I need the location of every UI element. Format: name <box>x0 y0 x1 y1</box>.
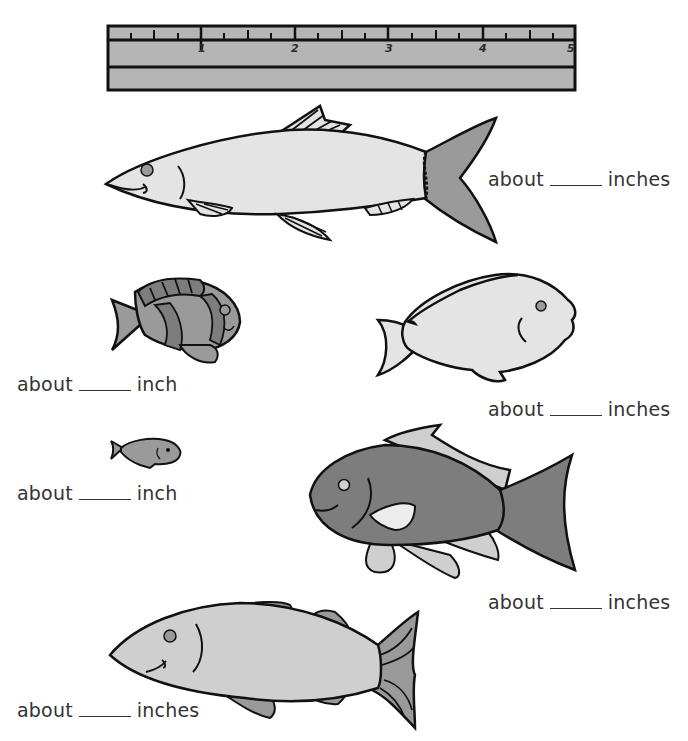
unit-text: inches <box>137 699 200 721</box>
about-text: about <box>17 699 73 721</box>
trout-fish-image <box>0 0 688 741</box>
length-answer-blank[interactable] <box>79 702 131 717</box>
trout-length-label: aboutinches <box>17 699 199 721</box>
